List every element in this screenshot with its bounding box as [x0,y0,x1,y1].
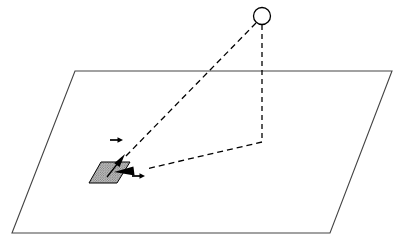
light-source-circle [254,8,271,25]
figure-root [0,0,399,244]
canvas-background [0,0,399,244]
diagram-canvas [0,0,399,244]
